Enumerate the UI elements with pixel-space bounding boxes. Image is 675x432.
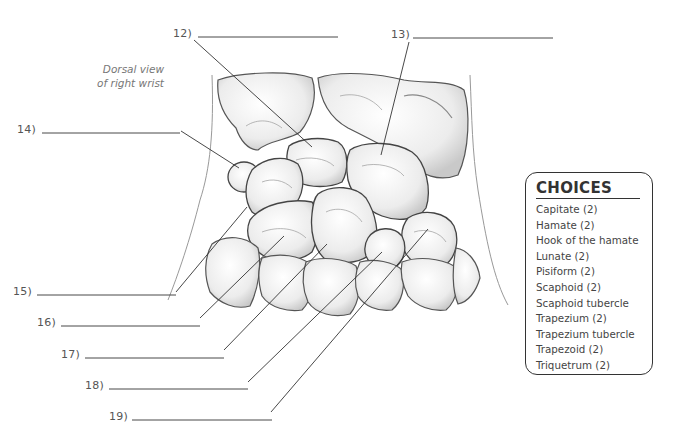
answer-blank-13[interactable] bbox=[413, 26, 553, 38]
choice-item: Scaphoid (2) bbox=[536, 280, 652, 296]
answer-blank-12[interactable] bbox=[198, 25, 338, 37]
choice-item: Triquetrum (2) bbox=[536, 358, 652, 374]
answer-blank-18[interactable] bbox=[109, 377, 248, 389]
choices-box: CHOICES Capitate (2) Hamate (2) Hook of … bbox=[525, 172, 653, 375]
choice-item: Trapezoid (2) bbox=[536, 342, 652, 358]
choice-item: Trapezium tubercle bbox=[536, 327, 652, 343]
answer-blank-16[interactable] bbox=[61, 314, 200, 326]
label-number-14: 14) bbox=[17, 123, 36, 136]
caption-line-2: of right wrist bbox=[54, 76, 164, 90]
label-number-18: 18) bbox=[85, 379, 104, 392]
label-number-17: 17) bbox=[61, 348, 80, 361]
choice-item: Capitate (2) bbox=[536, 202, 652, 218]
label-number-12: 12) bbox=[173, 27, 192, 40]
answer-blank-17[interactable] bbox=[85, 346, 224, 358]
answer-blank-14[interactable] bbox=[42, 121, 180, 133]
choice-item: Trapezium (2) bbox=[536, 311, 652, 327]
choice-item: Pisiform (2) bbox=[536, 264, 652, 280]
label-number-19: 19) bbox=[109, 410, 128, 423]
radius-bone bbox=[218, 73, 315, 150]
choices-title: CHOICES bbox=[536, 179, 640, 199]
choice-item: Scaphoid tubercle bbox=[536, 296, 652, 312]
answer-blank-15[interactable] bbox=[37, 283, 176, 295]
label-number-13: 13) bbox=[391, 28, 410, 41]
answer-blank-19[interactable] bbox=[132, 408, 272, 420]
caption-line-1: Dorsal view bbox=[54, 62, 164, 76]
choice-item: Lunate (2) bbox=[536, 249, 652, 265]
wrist-labeling-worksheet: Dorsal view of right wrist 12) 13) 14) 1… bbox=[0, 0, 675, 432]
view-caption: Dorsal view of right wrist bbox=[54, 62, 164, 90]
label-number-16: 16) bbox=[37, 316, 56, 329]
choice-item: Hook of the hamate bbox=[536, 233, 652, 249]
choice-item: Hamate (2) bbox=[536, 218, 652, 234]
label-number-15: 15) bbox=[13, 285, 32, 298]
